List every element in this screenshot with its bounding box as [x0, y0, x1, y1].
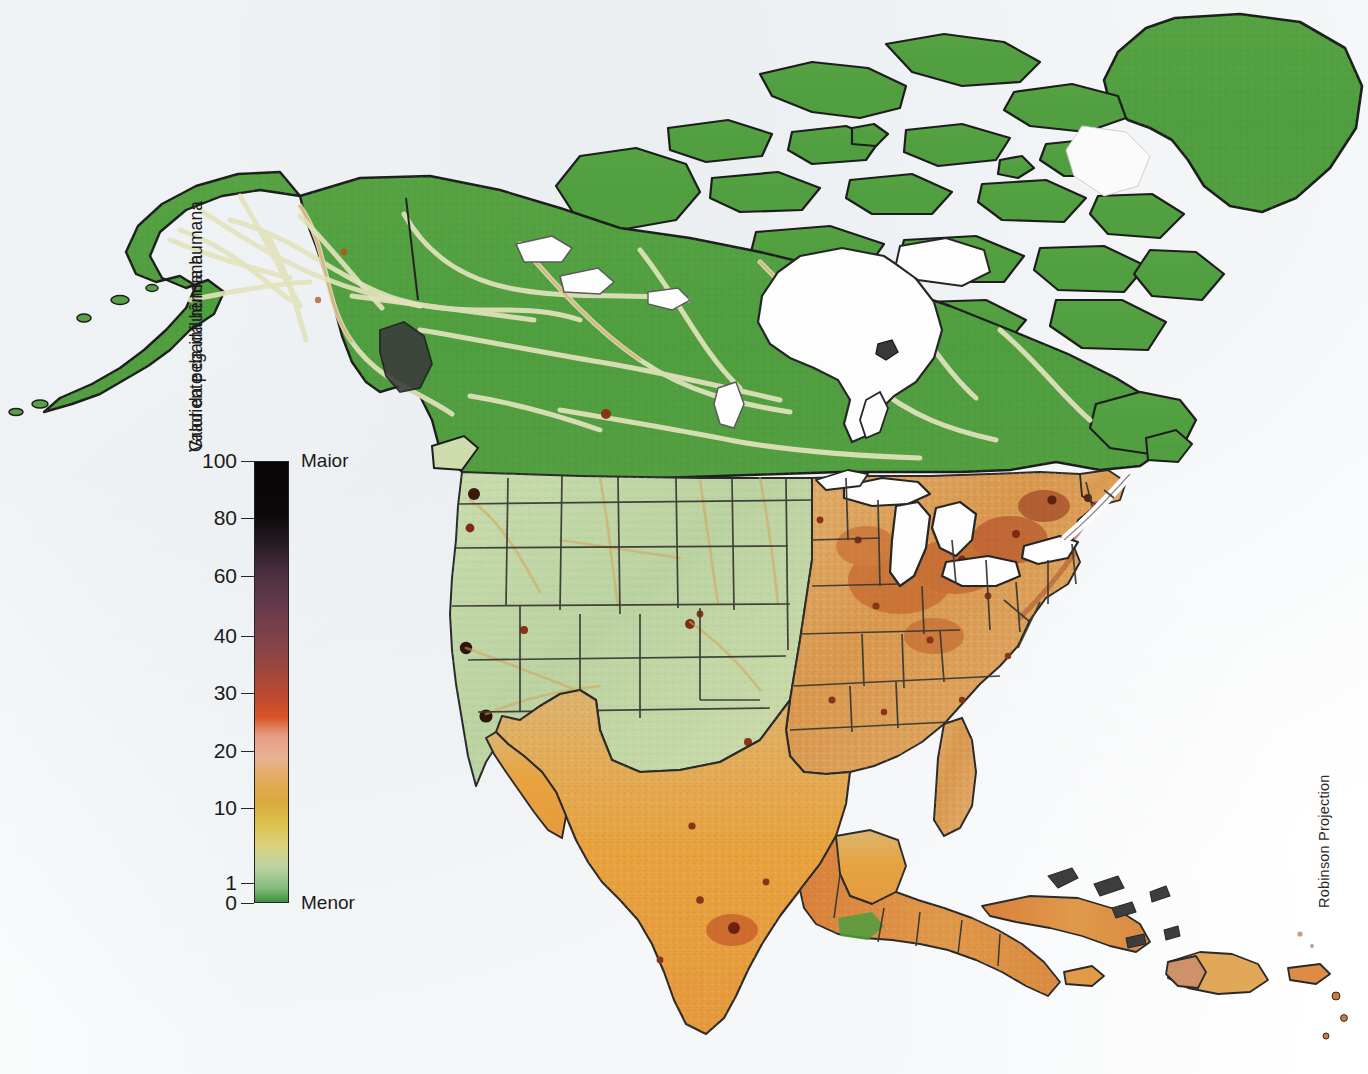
settlement-dot — [341, 249, 348, 256]
legend-title-right: Gradiente da influência humana — [186, 201, 207, 452]
legend-tick-30 — [241, 693, 254, 694]
legend-low-label: Menor — [301, 892, 355, 914]
legend-tick-40 — [241, 636, 254, 637]
legend-tick-0 — [241, 903, 254, 904]
legend: Valor da pegada humana Gradiente da infl… — [186, 452, 416, 922]
legend-tick-10 — [241, 808, 254, 809]
legend-tick-label-20: 20 — [214, 739, 237, 763]
legend-tick-label-0: 0 — [225, 891, 237, 915]
legend-tick-100 — [241, 461, 254, 462]
legend-tick-80 — [241, 518, 254, 519]
legend-tick-20 — [241, 751, 254, 752]
settlement-dot — [315, 297, 321, 303]
projection-note: Robinson Projection — [1316, 774, 1332, 908]
legend-tick-60 — [241, 576, 254, 577]
legend-tick-label-40: 40 — [214, 624, 237, 648]
region-caribbean — [982, 868, 1347, 1039]
legend-tick-label-60: 60 — [214, 564, 237, 588]
atlantic-islets — [1297, 931, 1314, 948]
gradient-swatch — [254, 461, 289, 903]
legend-tick-label-100: 100 — [202, 449, 237, 473]
legend-tick-1 — [241, 883, 254, 884]
legend-tick-label-80: 80 — [214, 506, 237, 530]
region-greenland — [1104, 14, 1362, 212]
map-figure: Valor da pegada humana Gradiente da infl… — [0, 0, 1368, 1074]
legend-tick-label-10: 10 — [214, 796, 237, 820]
legend-color-bar: 10080604030201010 Maior Menor — [254, 461, 289, 903]
legend-high-label: Maior — [301, 450, 349, 472]
legend-tick-label-30: 30 — [214, 681, 237, 705]
